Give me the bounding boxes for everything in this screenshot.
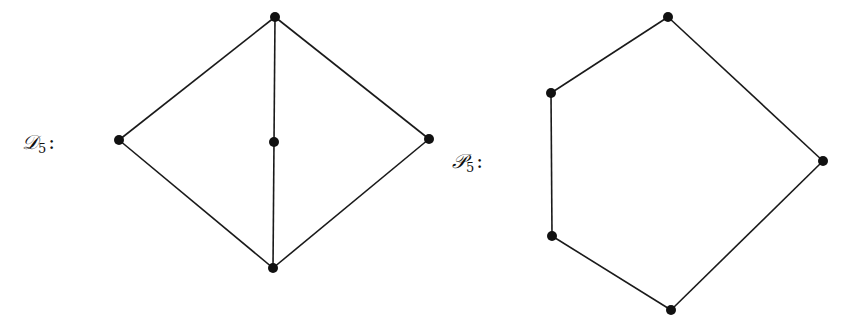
edge-lower-left-bottom [552,236,671,310]
node-top [663,12,673,22]
lattice-diagrams [0,0,852,336]
edge-top-center [274,17,275,142]
edge-top-right [668,17,823,161]
edge-left-bottom [119,140,273,268]
edge-top-right [275,17,429,139]
node-bottom [666,305,676,315]
p5-label-subscript: 5 [466,160,474,175]
p5-label: 𝒫5: [452,151,483,174]
p5-label-colon: : [476,149,483,173]
edge-upper-left-lower-left [551,93,552,236]
node-upper-left [546,88,556,98]
d5-label-colon: : [48,130,55,154]
node-bottom [268,263,278,273]
node-left [114,135,124,145]
node-lower-left [547,231,557,241]
d5-label-letter: 𝒟 [22,130,38,154]
d5-label: 𝒟5: [22,132,55,155]
edge-right-bottom [671,161,823,310]
node-right [818,156,828,166]
edge-right-bottom [273,139,429,268]
edge-top-upper-left [551,17,668,93]
pentagon-lattice-p5 [546,12,828,315]
node-right [424,134,434,144]
edge-center-bottom [273,142,274,268]
node-center [269,137,279,147]
node-top [270,12,280,22]
edge-top-left [119,17,275,140]
p5-label-letter: 𝒫 [452,149,466,173]
d5-label-subscript: 5 [38,141,46,156]
diamond-lattice-d5 [114,12,434,273]
